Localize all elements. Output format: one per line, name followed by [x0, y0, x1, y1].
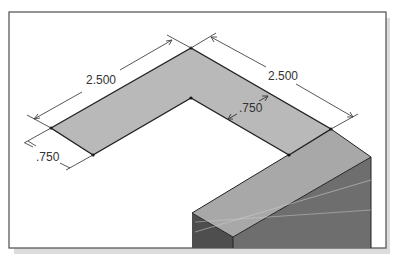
dimension-label-left-width: .750 — [36, 150, 60, 164]
dimension-label-inner-width: .750 — [239, 101, 263, 115]
dimension-label-right-length: 2.500 — [268, 69, 298, 83]
dimension-label-left-length: 2.500 — [86, 73, 116, 87]
drawing-canvas: 2.500 2.500 .750 .750 — [0, 0, 401, 261]
